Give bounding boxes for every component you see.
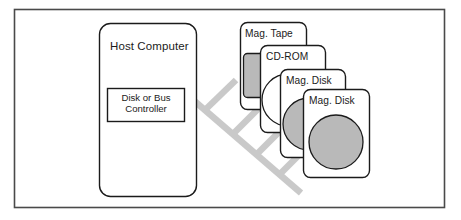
host-computer-title: Host Computer	[110, 40, 189, 53]
mag-disk-1-label: Mag. Disk	[286, 75, 332, 86]
disk-or-bus-controller-label: Disk or Bus Controller	[110, 93, 182, 114]
controller-label-line-2: Controller	[110, 104, 182, 115]
figure-frame	[15, 10, 445, 208]
diagram-canvas: Host Computer Disk or Bus Controller Mag…	[0, 0, 461, 220]
cd-rom-label: CD-ROM	[266, 51, 308, 62]
mag-tape-label: Mag. Tape	[245, 28, 293, 39]
diagram-graphics	[0, 0, 461, 220]
mag-disk-2-label: Mag. Disk	[309, 95, 355, 106]
mag-disk-2-platter-icon	[309, 115, 363, 169]
